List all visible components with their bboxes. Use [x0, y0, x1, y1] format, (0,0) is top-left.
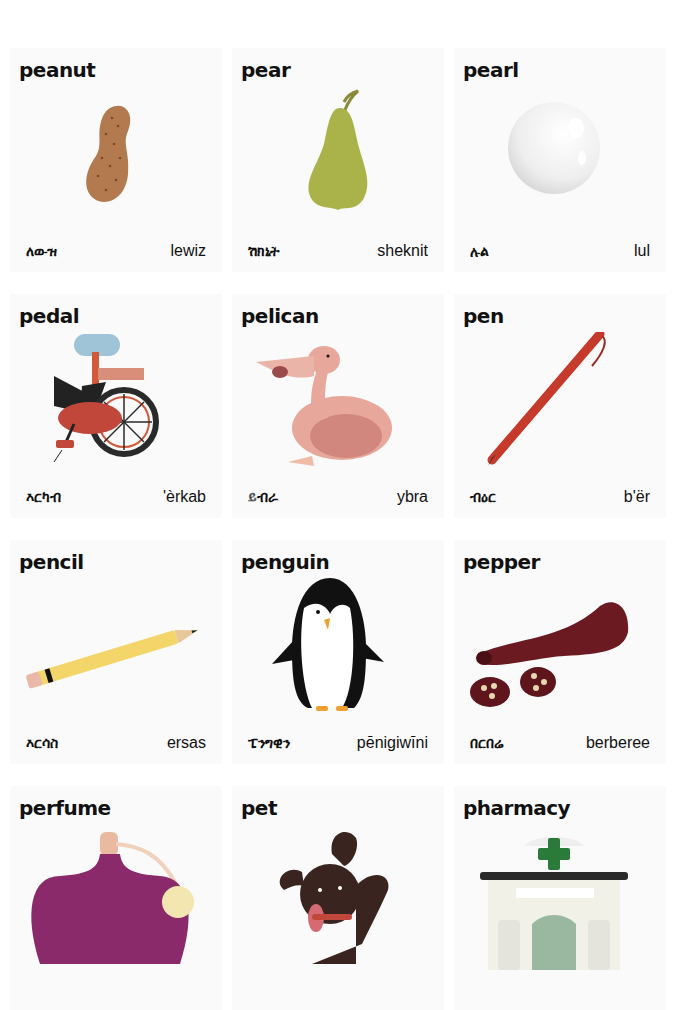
entry-transliteration: ybra: [397, 488, 428, 506]
entry-amharic: ይብራ: [248, 489, 278, 506]
entry-transliteration: lewiz: [170, 242, 206, 260]
entry-card-pencil: pencil እርሳስ ersas: [10, 540, 222, 764]
entry-word: pet: [241, 796, 277, 820]
entry-amharic: ሽክኒት: [248, 243, 279, 260]
entry-card-pharmacy: pharmacy: [454, 786, 666, 1010]
entry-card-pear: pear ሽክኒት sheknit: [232, 48, 444, 272]
entry-transliteration: berberee: [586, 734, 650, 752]
entry-transliteration: sheknit: [377, 242, 428, 260]
entry-amharic: ብዕር: [470, 489, 496, 506]
pharmacy-icon: [454, 824, 666, 974]
entry-word: pearl: [463, 58, 519, 82]
entry-word: perfume: [19, 796, 111, 820]
entry-word: peanut: [19, 58, 95, 82]
peanut-icon: [10, 86, 222, 236]
entry-transliteration: lul: [634, 242, 650, 260]
pen-icon: [454, 332, 666, 482]
entry-transliteration: pēnigiwīni: [357, 734, 428, 752]
entry-transliteration: 'èrkab: [163, 488, 206, 506]
entry-amharic: በርበሬ: [470, 735, 503, 752]
bicycle-pedal-icon: [10, 332, 222, 482]
entry-card-perfume: perfume: [10, 786, 222, 1010]
entry-card-peanut: peanut ለውዝ lewiz: [10, 48, 222, 272]
entry-amharic: እርሳስ: [26, 735, 58, 752]
entry-word: penguin: [241, 550, 329, 574]
entry-word: pencil: [19, 550, 84, 574]
entry-transliteration: b'ër: [624, 488, 650, 506]
pepper-icon: [454, 578, 666, 728]
entry-word: pharmacy: [463, 796, 570, 820]
entry-word: pepper: [463, 550, 540, 574]
pear-icon: [232, 86, 444, 236]
entry-transliteration: ersas: [167, 734, 206, 752]
entry-card-pet: pet: [232, 786, 444, 1010]
entry-word: pear: [241, 58, 290, 82]
pelican-icon: [232, 332, 444, 482]
entry-word: pen: [463, 304, 504, 328]
entry-word: pelican: [241, 304, 319, 328]
dictionary-grid: peanut ለውዝ lewiz pear ሽክኒት sheknit pearl…: [10, 48, 670, 1010]
entry-card-pearl: pearl ሉል lul: [454, 48, 666, 272]
perfume-bottle-icon: [10, 824, 222, 974]
entry-amharic: እርካብ: [26, 489, 61, 506]
entry-amharic: ፔንግዊን: [248, 735, 290, 752]
entry-card-penguin: penguin ፔንግዊን pēnigiwīni: [232, 540, 444, 764]
pearl-icon: [454, 86, 666, 236]
pencil-icon: [10, 578, 222, 728]
entry-card-pedal: pedal እርካብ 'èrkab: [10, 294, 222, 518]
entry-amharic: ለውዝ: [26, 243, 57, 260]
entry-card-pepper: pepper በርበሬ berberee: [454, 540, 666, 764]
penguin-icon: [232, 578, 444, 728]
entry-card-pen: pen ብዕር b'ër: [454, 294, 666, 518]
entry-amharic: ሉል: [470, 243, 489, 260]
entry-card-pelican: pelican ይብራ ybra: [232, 294, 444, 518]
entry-word: pedal: [19, 304, 79, 328]
dog-icon: [232, 824, 444, 974]
